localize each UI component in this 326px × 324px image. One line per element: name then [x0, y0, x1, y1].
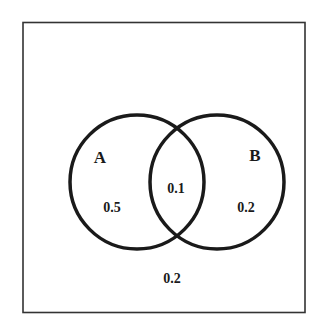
- venn-diagram: A B 0.5 0.1 0.2 0.2: [0, 0, 326, 324]
- set-a-label: A: [94, 148, 107, 167]
- a-only-value: 0.5: [103, 200, 121, 215]
- b-only-value: 0.2: [237, 200, 255, 215]
- set-b-label: B: [249, 146, 260, 165]
- intersection-value: 0.1: [167, 181, 185, 196]
- universe-box: [23, 23, 305, 313]
- outside-value: 0.2: [163, 271, 181, 286]
